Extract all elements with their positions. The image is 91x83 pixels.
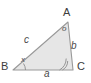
side-label-b: b xyxy=(71,41,77,51)
vertex-label-a: A xyxy=(63,7,70,18)
vertex-label-c: C xyxy=(77,61,85,72)
side-label-c: c xyxy=(24,35,29,45)
side-label-a: a xyxy=(44,69,50,79)
vertex-label-b: B xyxy=(1,61,8,72)
triangle-diagram: A B C a b c o x xyxy=(0,0,91,83)
angle-label-at-a: o xyxy=(62,25,66,33)
angle-label-at-b: x xyxy=(21,56,25,64)
